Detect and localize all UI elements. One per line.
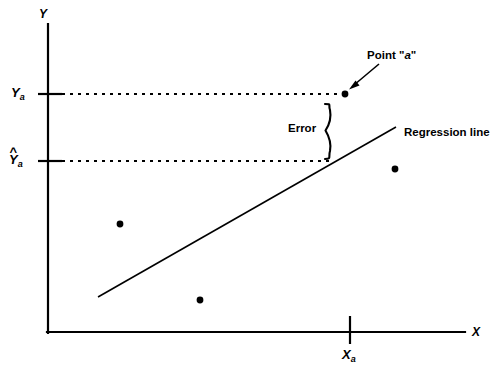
y-predicted-hat-group: ^Y — [9, 153, 18, 166]
data-point — [197, 297, 204, 304]
regression-line-label: Regression line — [404, 127, 490, 139]
y-observed-subscript: a — [20, 92, 25, 102]
error-label: Error — [288, 123, 316, 135]
y-observed-base: Y — [11, 85, 20, 100]
data-point — [392, 166, 399, 173]
regression-error-figure: Y X Ya ^Ya Xa Point "a" Error Regression… — [0, 0, 494, 375]
error-brace — [325, 104, 330, 159]
x-axis-label: X — [472, 326, 480, 338]
hat-icon: ^ — [9, 145, 17, 158]
y-tick-label-predicted: ^Ya — [9, 153, 23, 166]
x-tick-label-a: Xa — [342, 348, 356, 361]
point-a-label: Point "a" — [367, 50, 416, 62]
data-point-a — [342, 91, 349, 98]
data-point — [117, 221, 124, 228]
y-axis-label: Y — [39, 8, 47, 20]
y-predicted-subscript: a — [18, 159, 23, 169]
point-a-label-italic: a — [404, 49, 410, 61]
y-tick-label-observed: Ya — [11, 86, 25, 99]
regression-line — [98, 127, 396, 297]
figure-canvas — [0, 0, 494, 375]
x-a-base: X — [342, 347, 351, 362]
x-a-subscript: a — [351, 354, 356, 364]
point-a-callout-arrow — [349, 64, 379, 90]
